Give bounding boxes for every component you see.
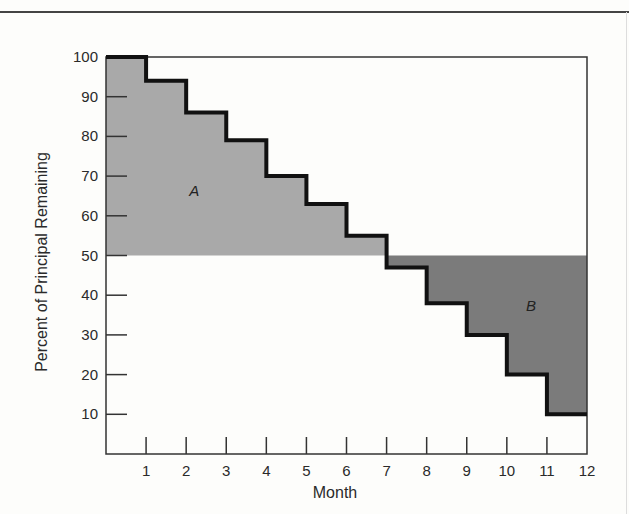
x-tick-label: 3 <box>222 462 230 479</box>
x-tick-label: 4 <box>262 462 270 479</box>
y-tick-label: 20 <box>81 366 98 383</box>
x-tick-label: 12 <box>579 462 596 479</box>
x-tick-label: 7 <box>382 462 390 479</box>
y-tick-label: 80 <box>81 127 98 144</box>
x-tick-label: 10 <box>498 462 515 479</box>
x-tick-label: 2 <box>182 462 190 479</box>
y-tick-label: 70 <box>81 167 98 184</box>
region-a <box>106 57 387 256</box>
y-tick-label: 10 <box>81 405 98 422</box>
x-tick-label: 6 <box>342 462 350 479</box>
x-axis: 123456789101112 <box>142 437 595 479</box>
y-tick-label: 50 <box>81 247 98 264</box>
region-label-a: A <box>188 182 199 199</box>
x-tick-label: 1 <box>142 462 150 479</box>
y-axis-title: Percent of Principal Remaining <box>33 152 50 372</box>
region-label-b: B <box>526 297 536 314</box>
y-tick-label: 40 <box>81 286 98 303</box>
y-tick-label: 90 <box>81 88 98 105</box>
y-tick-label: 60 <box>81 207 98 224</box>
x-axis-title: Month <box>313 484 357 501</box>
y-tick-label: 30 <box>81 326 98 343</box>
x-tick-label: 9 <box>463 462 471 479</box>
y-tick-label: 100 <box>73 48 98 65</box>
x-tick-label: 5 <box>302 462 310 479</box>
x-tick-label: 11 <box>539 462 555 479</box>
x-tick-label: 8 <box>422 462 430 479</box>
step-chart: 102030405060708090100 123456789101112 Mo… <box>0 0 629 514</box>
